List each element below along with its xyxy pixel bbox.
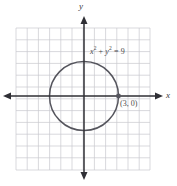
equation-value: 9 — [121, 47, 125, 56]
point-label-3-0: (3, 0) — [120, 100, 137, 108]
coordinate-plot — [0, 0, 177, 186]
point-marker-3-0 — [116, 94, 121, 99]
equation-plus: + — [97, 47, 106, 56]
axis-label-y: y — [79, 2, 83, 11]
equation-annotation: x2 + y2 = 9 — [90, 46, 125, 56]
graph-figure: y x x2 + y2 = 9 (3, 0) — [0, 0, 177, 186]
equation-equals: = — [112, 47, 121, 56]
axis-label-x: x — [166, 91, 170, 100]
y-axis — [81, 16, 88, 180]
